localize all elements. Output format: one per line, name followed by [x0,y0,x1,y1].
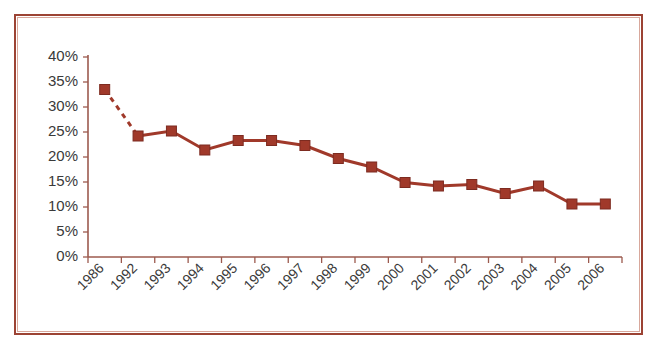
y-axis-tick-label: 35% [48,72,78,89]
y-axis-tick-label: 10% [48,197,78,214]
series-segment-dashed [105,90,138,137]
data-point-marker: 1997: 22.3% [300,141,310,151]
x-axis-tick-label: 1993 [140,260,173,293]
x-axis-tick-marks [88,257,622,263]
y-axis-tick-label: 5% [56,222,78,239]
x-axis-tick-label: 1995 [207,260,240,293]
x-axis-tick-label: 2006 [574,260,607,293]
data-point-marker: 2000: 14.9% [400,178,410,188]
x-axis-tick-label: 2004 [507,260,540,293]
data-point-marker: 1992: 24.2% [133,131,143,141]
data-point-marker: 2002: 14.5% [467,180,477,190]
y-axis-tick-label: 40% [48,47,78,64]
data-point-marker: 2001: 14.2% [433,181,443,191]
chart-figure: 0%5%10%15%20%25%30%35%40% 19861992199319… [0,0,657,349]
x-axis-tick-label: 2000 [374,260,407,293]
y-axis-tick-label: 0% [56,247,78,264]
x-axis-tick-label: 1999 [340,260,373,293]
x-axis-tick-label: 1992 [107,260,140,293]
plot-area-wrapper: 0%5%10%15%20%25%30%35%40% 19861992199319… [0,0,657,349]
x-axis-tick-label: 1997 [274,260,307,293]
x-axis-tick-label: 1998 [307,260,340,293]
y-axis-tick-label: 15% [48,172,78,189]
x-axis-tick-label: 2002 [441,260,474,293]
x-axis-tick-label: 2003 [474,260,507,293]
series-marker-group: 1986: 33.5%1992: 24.2%1993: 25.2%1994: 2… [100,85,611,210]
x-axis-tick-label: 1994 [174,260,207,293]
data-point-marker: 1996: 23.3% [267,136,277,146]
y-axis-tick-labels: 0%5%10%15%20%25%30%35%40% [48,47,78,264]
series-line-group [105,90,606,205]
data-point-marker: 1986: 33.5% [100,85,110,95]
data-point-marker: 1999: 18% [367,162,377,172]
line-chart: 0%5%10%15%20%25%30%35%40% 19861992199319… [0,0,657,349]
data-point-marker: 1998: 19.7% [333,154,343,164]
data-point-marker: 2004: 14.2% [534,181,544,191]
data-point-marker: 2003: 12.7% [500,189,510,199]
y-axis-tick-label: 25% [48,122,78,139]
x-axis-tick-label: 1996 [240,260,273,293]
data-point-marker: 1995: 23.3% [233,136,243,146]
x-axis-tick-label: 1986 [73,260,106,293]
x-axis-tick-label: 2005 [541,260,574,293]
data-point-marker: 1993: 25.2% [166,126,176,136]
data-point-marker: 2005: 10.6% [567,199,577,209]
data-point-marker: 2006: 10.6% [600,199,610,209]
x-axis-tick-labels: 1986199219931994199519961997199819992000… [73,260,607,293]
x-axis-tick-label: 2001 [407,260,440,293]
y-axis-tick-label: 20% [48,147,78,164]
data-point-marker: 1994: 21.4% [200,145,210,155]
y-axis-tick-label: 30% [48,97,78,114]
